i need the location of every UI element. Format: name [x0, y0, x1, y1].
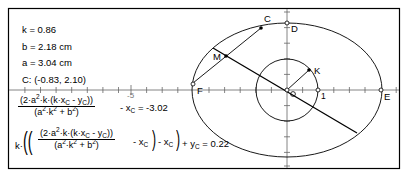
ycalc-prefix: k·: [15, 141, 23, 151]
point-unit[interactable]: [316, 88, 320, 92]
sketch-canvas[interactable]: k = 0.86 b = 2.18 cm a = 3.04 cm C: (-0.…: [0, 0, 405, 177]
radius-ok[interactable]: [287, 70, 309, 90]
ycalc-mid: - xC: [133, 137, 148, 147]
point-origin[interactable]: [285, 88, 289, 92]
tick-label-neg5: -5: [127, 92, 134, 100]
xcalc-fraction[interactable]: (2·a2·k·(k·xC - yC)) (a2·k2 + b2): [18, 96, 95, 118]
xcalc-result[interactable]: - xC = -3.02: [120, 103, 168, 113]
ycalc-denominator: (a2·k2 + b2): [54, 140, 99, 150]
point-c[interactable]: [259, 26, 263, 30]
point-d[interactable]: [285, 21, 289, 25]
label-k: K: [314, 66, 320, 76]
ycalc-mid2: - xC: [158, 137, 173, 147]
measure-a[interactable]: a = 3.04 cm: [22, 58, 72, 68]
label-e: E: [384, 92, 390, 102]
ycalc-fraction[interactable]: (2·a2·k·(k·xC - yC)) (a2·k2 + b2): [38, 129, 115, 151]
measure-b[interactable]: b = 2.18 cm: [22, 42, 72, 52]
ycalc-open-parens: ((: [23, 128, 33, 154]
xcalc-denominator: (a2·k2 + b2): [34, 107, 79, 117]
point-f[interactable]: [191, 82, 195, 86]
ycalc-result[interactable]: + yC = 0.22: [182, 139, 229, 149]
point-k[interactable]: [307, 68, 311, 72]
xcalc-value: -3.02: [146, 102, 168, 113]
ycalc-close-paren-1: ): [152, 128, 156, 150]
label-f: F: [197, 86, 203, 96]
ycalc-value: 0.22: [210, 138, 229, 149]
label-d: D: [291, 24, 298, 34]
point-e[interactable]: [379, 88, 383, 92]
ycalc-close-paren-2: ): [176, 128, 180, 150]
measure-c-coords[interactable]: C: (-0.83, 2.10): [22, 75, 86, 85]
measure-k[interactable]: k = 0.86: [22, 25, 56, 35]
label-m: M: [213, 52, 221, 62]
point-m[interactable]: [224, 54, 228, 58]
tick-label-1: 1: [321, 92, 326, 101]
label-c: C: [264, 14, 271, 24]
